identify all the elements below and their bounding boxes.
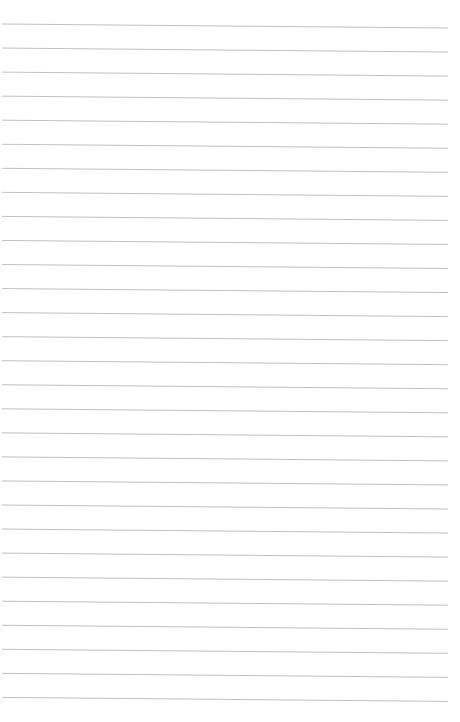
- ruled-line: [2, 120, 448, 124]
- lined-paper-sheet: [0, 0, 460, 722]
- ruled-line: [2, 192, 448, 196]
- ruled-line: [2, 433, 448, 437]
- ruled-line: [2, 24, 448, 28]
- ruled-line: [2, 457, 448, 461]
- ruled-line: [2, 337, 448, 341]
- ruled-line: [2, 48, 448, 52]
- ruled-line: [2, 409, 448, 413]
- ruled-line: [2, 697, 448, 701]
- ruled-line: [2, 96, 448, 100]
- ruled-line: [2, 144, 448, 148]
- ruled-line: [2, 601, 448, 605]
- ruled-line: [2, 577, 448, 581]
- ruled-line: [2, 529, 448, 533]
- ruled-line: [2, 673, 448, 677]
- ruled-line: [2, 649, 448, 653]
- ruled-line: [2, 481, 448, 485]
- ruled-line: [2, 385, 448, 389]
- ruled-line: [2, 553, 448, 557]
- ruled-line: [2, 265, 448, 269]
- ruled-line: [2, 72, 448, 76]
- ruled-line: [2, 168, 448, 172]
- ruled-line: [2, 289, 448, 293]
- ruled-line: [2, 625, 448, 629]
- ruled-lines: [0, 0, 460, 722]
- ruled-line: [2, 216, 448, 220]
- ruled-line: [2, 361, 448, 365]
- ruled-line: [2, 240, 448, 244]
- ruled-line: [2, 313, 448, 317]
- ruled-line: [2, 505, 448, 509]
